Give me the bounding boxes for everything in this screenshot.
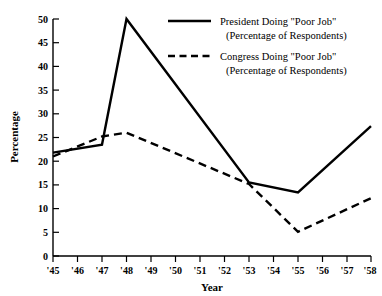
y-tick-label: 35	[38, 85, 48, 96]
y-tick-label: 10	[38, 203, 48, 214]
x-tick-label: '50	[169, 265, 182, 276]
x-tick-label: '58	[364, 265, 377, 276]
legend-label-congress: Congress Doing "Poor Job"	[220, 51, 336, 62]
x-tick-label: '54	[267, 265, 280, 276]
x-tick-labels: '45 '46 '47 '48 '49 '50 '51 '52 '53 '54 …	[47, 265, 377, 276]
series-president-line	[53, 19, 371, 193]
legend-sublabel-congress: (Percentage of Respondents)	[226, 65, 347, 77]
y-tick-label: 5	[43, 227, 48, 238]
y-tick-label: 45	[38, 37, 48, 48]
y-axis-title: Percentage	[8, 111, 20, 163]
x-axis-title: Year	[201, 281, 223, 293]
x-axis-ticks	[53, 256, 371, 262]
y-tick-label: 25	[38, 132, 48, 143]
x-tick-label: '46	[71, 265, 84, 276]
line-chart-canvas: 0 5 10 15 20 25 30 35 40 45 50 '45 '46 '…	[0, 0, 382, 296]
x-tick-label: '56	[316, 265, 329, 276]
chart-figure: 0 5 10 15 20 25 30 35 40 45 50 '45 '46 '…	[0, 0, 382, 296]
y-axis-ticks	[53, 19, 59, 256]
x-tick-label: '55	[292, 265, 305, 276]
x-tick-label: '48	[120, 265, 133, 276]
y-tick-labels: 0 5 10 15 20 25 30 35 40 45 50	[38, 14, 48, 262]
x-tick-label: '52	[218, 265, 231, 276]
legend-label-president: President Doing "Poor Job"	[220, 16, 336, 27]
x-tick-label: '57	[341, 265, 354, 276]
x-tick-label: '47	[96, 265, 109, 276]
x-tick-label: '49	[145, 265, 158, 276]
legend-sublabel-president: (Percentage of Respondents)	[226, 30, 347, 42]
y-tick-label: 40	[38, 61, 48, 72]
y-tick-label: 0	[43, 251, 48, 262]
y-tick-label: 15	[38, 179, 48, 190]
y-tick-label: 20	[38, 156, 48, 167]
chart-legend: President Doing "Poor Job" (Percentage o…	[168, 16, 347, 77]
x-tick-label: '45	[47, 265, 60, 276]
x-tick-label: '51	[194, 265, 207, 276]
y-tick-label: 50	[38, 14, 48, 25]
series-congress-line	[53, 133, 371, 232]
y-tick-label: 30	[38, 108, 48, 119]
x-tick-label: '53	[243, 265, 256, 276]
